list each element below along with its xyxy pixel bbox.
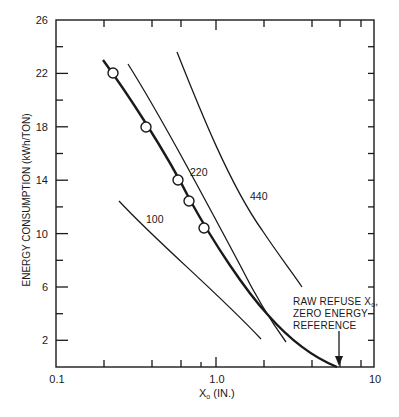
zero-energy-annotation: RAW REFUSE Xo, ZERO ENERGY REFERENCE	[293, 296, 378, 366]
curve-label-100: 100	[146, 213, 164, 225]
x-axis-ticks-bottom	[104, 357, 361, 367]
data-point	[108, 68, 118, 78]
curve-220	[128, 64, 286, 342]
data-point	[141, 122, 151, 132]
y-tick-18: 18	[36, 121, 48, 133]
x-tick-labels: 0.1 1.0 10	[49, 373, 381, 385]
curve-label-440: 440	[250, 190, 268, 202]
y-axis-ticks-left	[56, 47, 68, 341]
y-axis-title: ENERGY CONSUMPTION (kWh/TON)	[21, 114, 32, 287]
y-tick-22: 22	[36, 67, 48, 79]
curve-label-220: 220	[190, 166, 208, 178]
y-tick-6: 6	[42, 281, 48, 293]
y-tick-26: 26	[36, 14, 48, 26]
y-tick-labels: 26 22 18 14 10 6 2	[36, 14, 48, 346]
y-tick-10: 10	[36, 228, 48, 240]
y-tick-2: 2	[42, 334, 48, 346]
arrow-down-icon	[335, 356, 343, 366]
annotation-line-1: RAW REFUSE Xo,	[293, 296, 378, 308]
x-tick-1-0: 1.0	[209, 373, 224, 385]
annotation-line-2: ZERO ENERGY	[293, 308, 368, 319]
data-point	[199, 223, 209, 233]
annotation-line-3: REFERENCE	[293, 320, 357, 331]
x-tick-0-1: 0.1	[49, 373, 64, 385]
y-tick-14: 14	[36, 174, 48, 186]
x-tick-10: 10	[369, 373, 381, 385]
x-axis-ticks-top	[104, 20, 361, 30]
data-point	[173, 175, 183, 185]
data-point	[184, 196, 194, 206]
curve-100	[119, 201, 261, 339]
x-axis-title: Xo (IN.)	[199, 387, 235, 400]
chart: 26 22 18 14 10 6 2 0.1 1.0 10 ENERGY CON…	[0, 0, 399, 417]
